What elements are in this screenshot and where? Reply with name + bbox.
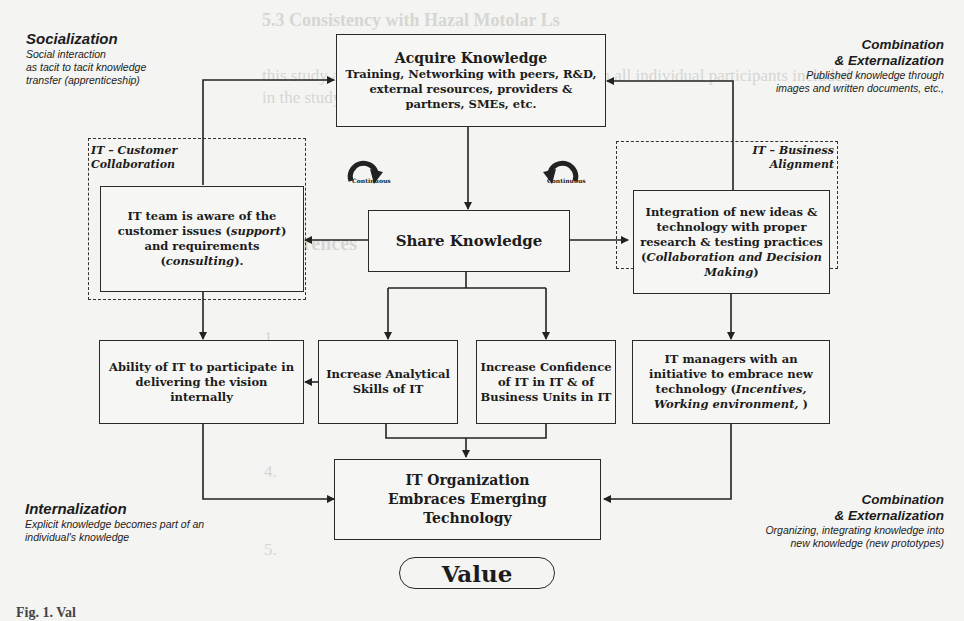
corner-socialization: Socialization Social interaction as taci… <box>26 30 146 87</box>
node-it-organization: IT Organization Embraces Emerging Techno… <box>334 459 601 540</box>
group-label-customer: IT – CustomerCollaboration <box>91 144 177 172</box>
node-share-knowledge: Share Knowledge <box>368 210 570 272</box>
group-label-business: IT – BusinessAlignment <box>700 144 834 172</box>
node-acquire-knowledge: Acquire Knowledge Training, Networking w… <box>336 34 606 127</box>
node-ability-of-it: Ability of IT to participate in deliveri… <box>99 340 304 424</box>
node-integration: Integration of new ideas & technology wi… <box>633 190 830 294</box>
corner-combination-bottom: Combination & Externalization Organizing… <box>765 492 944 550</box>
continuous-label-left: Continuous <box>352 177 391 184</box>
continuous-label-right: Continuous <box>547 177 586 184</box>
node-customer-awareness: IT team is aware of the customer issues … <box>100 186 304 292</box>
corner-internalization: Internalization Explicit knowledge becom… <box>25 500 204 544</box>
figure-caption: Fig. 1. Val <box>16 605 76 621</box>
node-value: Value <box>399 557 555 589</box>
corner-combination-top: Combination & Externalization Published … <box>776 37 944 95</box>
node-confidence: Increase Confidence of IT in IT & of Bus… <box>476 340 616 424</box>
node-analytical-skills: Increase Analytical Skills of IT <box>318 340 458 424</box>
node-it-managers: IT managers with an initiative to embrac… <box>632 340 830 424</box>
